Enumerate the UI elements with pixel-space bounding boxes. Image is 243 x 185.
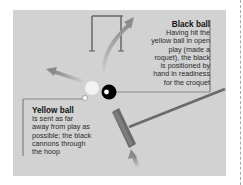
small-ball-marker-icon: [83, 96, 88, 101]
yellow-ball-desc-line: the hoop: [32, 148, 98, 156]
black-ball-icon: [102, 85, 117, 100]
yellow-ball-path-arrow-icon: [46, 67, 85, 82]
black-ball-annotation: Black ball Having hit the yellow ball in…: [140, 20, 210, 87]
yellow-ball-annotation: Yellow ball Is sent as far away from pla…: [32, 106, 98, 156]
yellow-ball-icon: [85, 81, 99, 95]
black-ball-desc-line: for the croquet: [140, 79, 210, 87]
swing-arrow-icon: [128, 149, 138, 168]
black-ball-path-arrow-icon: [104, 17, 134, 75]
mallet-icon: [112, 89, 225, 148]
